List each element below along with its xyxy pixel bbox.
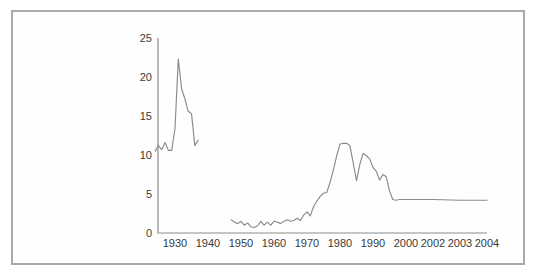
x-tick-label: 1980 <box>328 237 352 249</box>
x-tick-label: 2002 <box>421 237 445 249</box>
x-tick-label: 1930 <box>163 237 187 249</box>
x-tick-label: 1960 <box>262 237 286 249</box>
series-line-main-period <box>231 143 487 227</box>
x-axis-tick-labels: 1930194019501960197019801990200020022003… <box>163 237 499 249</box>
y-tick-label: 5 <box>146 188 152 200</box>
x-tick-label: 2003 <box>448 237 472 249</box>
chart-page: 0510152025 19301940195019601970198019902… <box>0 0 538 278</box>
plot-area: 0510152025 19301940195019601970198019902… <box>0 0 538 278</box>
y-tick-label: 20 <box>140 71 152 83</box>
x-tick-label: 2004 <box>475 237 499 249</box>
x-tick-label: 1940 <box>196 237 220 249</box>
y-tick-label: 0 <box>146 227 152 239</box>
series-group <box>155 59 487 227</box>
axis-lines <box>158 38 487 233</box>
line-chart: 0510152025 19301940195019601970198019902… <box>0 0 538 278</box>
series-line-early-period <box>155 59 198 151</box>
y-tick-label: 25 <box>140 32 152 44</box>
y-axis-tick-labels: 0510152025 <box>140 32 152 239</box>
y-tick-label: 10 <box>140 149 152 161</box>
x-tick-label: 2000 <box>394 237 418 249</box>
x-tick-label: 1950 <box>229 237 253 249</box>
x-tick-label: 1970 <box>295 237 319 249</box>
x-tick-label: 1990 <box>361 237 385 249</box>
y-tick-label: 15 <box>140 110 152 122</box>
